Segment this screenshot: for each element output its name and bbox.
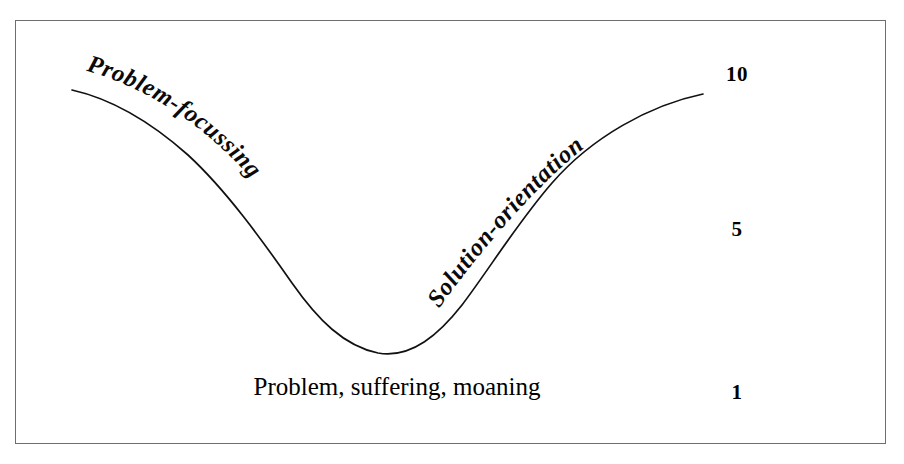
scale-label-middle: 5 xyxy=(710,219,764,240)
bottom-caption: Problem, suffering, moaning xyxy=(152,373,642,401)
label-problem-focussing: Problem-focussing xyxy=(83,49,268,182)
figure-container: Problem-focussing Solution-orientation 1… xyxy=(0,0,904,464)
valley-curve xyxy=(72,90,703,354)
scale-label-bottom: 1 xyxy=(710,382,764,403)
label-solution-orientation: Solution-orientation xyxy=(421,130,588,311)
scale-label-top: 10 xyxy=(710,64,764,85)
label-problem-focussing-text: Problem-focussing xyxy=(83,49,268,182)
label-solution-orientation-text: Solution-orientation xyxy=(421,130,588,311)
